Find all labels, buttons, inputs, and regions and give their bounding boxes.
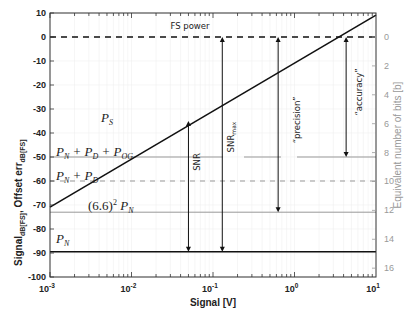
y-label-offset: Offset err (13, 162, 24, 207)
fs-power-label: FS power (170, 21, 210, 31)
y-label-offset-sub: dB[FS] (19, 140, 27, 163)
svg-text:SNRmax: SNRmax (226, 121, 237, 152)
arrowhead-icon (186, 121, 191, 126)
chart: 10-310-210-1100101 100-10-20-30-40-50-60… (0, 0, 412, 312)
y-tick-label: -30 (33, 104, 46, 114)
y-tick-label: -90 (33, 248, 46, 258)
snrmax-label: SNRmax (226, 121, 237, 152)
y2-tick-label: 8 (384, 148, 389, 158)
svg-text:“accuracy”: “accuracy” (354, 68, 364, 115)
y-tick-label: -50 (33, 152, 46, 162)
x-tick-label: 100 (285, 282, 299, 294)
y2-tick-label: 6 (384, 119, 389, 129)
pn-66-label: (6.6)2 PN (88, 198, 134, 215)
annotation-arrows (186, 37, 349, 252)
arrowhead-icon (344, 152, 349, 157)
y2-axis-label: Equivalent number of bits [b] (392, 81, 403, 208)
svg-text:Equivalent number of bits [b]: Equivalent number of bits [b] (392, 81, 403, 208)
y-tick-label: 10 (36, 8, 46, 18)
y-axis-label: SignaldB[FS], Offset errdB[FS] (13, 140, 27, 267)
precision-label: “precision” (292, 97, 302, 144)
accuracy-label: “accuracy” (354, 68, 364, 115)
y-tick-label: -100 (28, 272, 46, 282)
y-tick-label: -10 (33, 56, 46, 66)
y2-axis-ticks: 0246810121416 (372, 32, 394, 273)
snr-label: SNR (192, 153, 202, 171)
x-tick-label: 101 (366, 282, 380, 294)
svg-text:SNR: SNR (192, 153, 202, 171)
y-tick-label: -20 (33, 80, 46, 90)
y2-tick-label: 16 (384, 263, 394, 273)
y-label-signal-sub: dB[FS] (19, 213, 27, 236)
y-tick-label: 0 (41, 32, 46, 42)
svg-text:SignaldB[FS], Offset errdB[FS]: SignaldB[FS], Offset errdB[FS] (13, 140, 27, 267)
pn-pd-pog-label: PN + PD + POG (55, 144, 133, 161)
y-tick-label: -80 (33, 224, 46, 234)
x-axis-label: Signal [V] (190, 297, 236, 308)
y2-tick-label: 4 (384, 90, 389, 100)
y2-tick-label: 14 (384, 234, 394, 244)
svg-text:“precision”: “precision” (292, 97, 302, 144)
x-tick-label: 10-1 (202, 282, 218, 294)
ps-label: PS (100, 110, 113, 127)
y2-tick-label: 2 (384, 61, 389, 71)
pn-pd-label: PN + PD (55, 168, 99, 185)
x-tick-label: 10-2 (121, 282, 137, 294)
y-tick-label: -70 (33, 200, 46, 210)
x-tick-label: 10-3 (39, 282, 55, 294)
y-label-signal: Signal (13, 236, 24, 266)
y2-tick-label: 0 (384, 32, 389, 42)
y-tick-label: -60 (33, 176, 46, 186)
y-tick-label: -40 (33, 128, 46, 138)
pn-label: PN (55, 231, 70, 248)
